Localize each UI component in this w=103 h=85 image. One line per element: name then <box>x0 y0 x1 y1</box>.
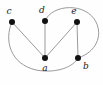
edge-e-b <box>77 22 78 58</box>
vertex-b <box>75 55 81 61</box>
graph-figure: c d e a b <box>0 0 103 85</box>
vertex-label-a: a <box>42 63 47 73</box>
vertex-label-c: c <box>6 6 11 16</box>
vertex-label-b: b <box>83 61 89 71</box>
edge-c-a <box>12 22 45 58</box>
vertex-a <box>42 55 48 61</box>
label-layer: c d e a b <box>6 5 89 73</box>
edge-e-a <box>45 22 77 58</box>
vertex-label-d: d <box>39 5 45 15</box>
vertex-d <box>42 18 48 24</box>
vertex-c <box>9 19 15 25</box>
vertex-e <box>74 19 80 25</box>
graph-canvas: c d e a b <box>0 0 103 85</box>
vertex-label-e: e <box>71 6 76 16</box>
